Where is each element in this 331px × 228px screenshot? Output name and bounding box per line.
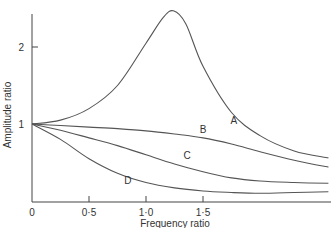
curve-b [32,124,328,167]
y-tick-label: 2 [18,42,24,53]
axes [32,14,331,202]
curve-label-c: C [183,150,190,161]
x-axis-label: Frequency ratio [140,218,210,228]
x-tick-label: 1·0 [139,207,154,218]
y-tick-label: 1 [18,119,24,130]
ticks [32,47,203,202]
curves [32,11,328,194]
curve-a [32,11,328,158]
x-tick-label: 1·5 [196,207,211,218]
x-tick-label: 0·5 [82,207,97,218]
amplitude-frequency-chart: 00·51·01·512Frequency ratioAmplitude rat… [0,0,331,228]
curve-label-b: B [200,124,207,135]
curve-label-a: A [230,115,237,126]
curve-label-d: D [124,175,131,186]
x-tick-label: 0 [29,207,35,218]
labels: 00·51·01·512Frequency ratioAmplitude rat… [2,42,237,228]
y-axis-label: Amplitude ratio [2,81,13,148]
curve-c [32,124,328,183]
